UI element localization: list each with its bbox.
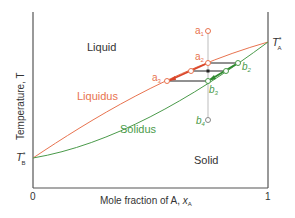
label-a1: a1 [195, 25, 205, 37]
label-b3: b3 [209, 84, 219, 96]
point-b4 [206, 118, 211, 123]
label-b2: b2 [242, 61, 252, 73]
solidus-label: Solidus [120, 123, 157, 135]
x-tick-1: 1 [265, 191, 271, 202]
label-b4: b4 [196, 115, 206, 127]
label-a2: a2 [195, 51, 205, 63]
x-axis-label: Mole fraction of A, xA [100, 195, 192, 207]
point-a2 [206, 61, 211, 66]
point-solid-mid [224, 69, 229, 74]
point-liquid-mid [189, 69, 194, 74]
phase-diagram: Liquid Solid Liquidus Solidus a1 a2 a3 b… [0, 0, 295, 218]
melting-point-B-label: T*B [16, 151, 26, 166]
midpoint-marker [207, 70, 210, 73]
point-a3 [165, 79, 170, 84]
point-a1 [206, 29, 211, 34]
liquidus-label: Liquidus [77, 90, 118, 102]
liquidus-curve [33, 42, 268, 158]
region-solid-label: Solid [194, 154, 218, 166]
x-tick-0: 0 [30, 191, 36, 202]
label-a3: a3 [152, 72, 162, 84]
melting-point-A-label: T*A [272, 36, 282, 51]
point-b3 [206, 79, 211, 84]
solidus-curve [33, 42, 268, 158]
region-liquid-label: Liquid [87, 41, 116, 53]
point-b2 [236, 61, 241, 66]
y-axis-label: Temperature, T [15, 72, 26, 140]
